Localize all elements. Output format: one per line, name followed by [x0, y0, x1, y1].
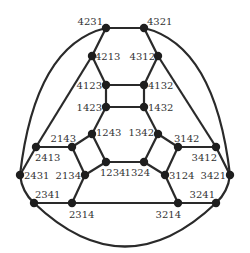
node-label-2134: 2134	[56, 170, 81, 181]
node-3142	[174, 143, 182, 151]
node-label-1324: 1324	[125, 167, 150, 178]
node-label-4321: 4321	[147, 16, 172, 27]
node-label-3142: 3142	[174, 133, 199, 144]
node-2314	[68, 199, 76, 207]
node-4123	[102, 81, 110, 89]
node-label-4312: 4312	[130, 51, 155, 62]
node-4132	[140, 81, 148, 89]
node-1342	[154, 130, 162, 138]
node-label-4132: 4132	[148, 80, 173, 91]
node-label-1243: 1243	[96, 127, 121, 138]
node-label-2431: 2431	[24, 170, 49, 181]
node-2143	[68, 143, 76, 151]
node-label-2314: 2314	[69, 209, 94, 220]
node-1432	[140, 103, 148, 111]
node-1324	[140, 158, 148, 166]
node-2413	[32, 143, 40, 151]
node-label-4213: 4213	[95, 51, 120, 62]
permutohedron-diagram: 4231432142134312412341321423143212431342…	[0, 0, 250, 253]
node-3214	[174, 199, 182, 207]
node-label-1432: 1432	[148, 102, 173, 113]
node-2341	[30, 199, 38, 207]
node-3241	[212, 199, 220, 207]
edge-1243-1234	[92, 134, 106, 162]
edge-1342-1324	[144, 134, 158, 162]
node-label-2143: 2143	[51, 133, 76, 144]
node-2431	[16, 171, 24, 179]
node-label-3124: 3124	[169, 170, 194, 181]
node-label-1234: 1234	[100, 167, 125, 178]
edge-2341-3241	[34, 203, 216, 247]
node-label-4123: 4123	[77, 80, 102, 91]
node-2134	[81, 171, 89, 179]
node-4312	[154, 52, 162, 60]
node-4231	[102, 24, 110, 32]
node-label-3412: 3412	[192, 152, 217, 163]
node-label-3421: 3421	[201, 170, 226, 181]
node-label-2341: 2341	[35, 189, 60, 200]
node-3412	[212, 143, 220, 151]
node-label-3214: 3214	[156, 209, 181, 220]
node-label-1342: 1342	[129, 127, 154, 138]
node-label-1423: 1423	[77, 102, 102, 113]
node-3124	[161, 171, 169, 179]
node-label-3241: 3241	[190, 189, 215, 200]
node-3421	[226, 171, 234, 179]
node-label-2413: 2413	[35, 152, 60, 163]
node-label-4231: 4231	[78, 16, 103, 27]
node-1423	[102, 103, 110, 111]
node-1234	[102, 158, 110, 166]
node-1243	[88, 130, 96, 138]
